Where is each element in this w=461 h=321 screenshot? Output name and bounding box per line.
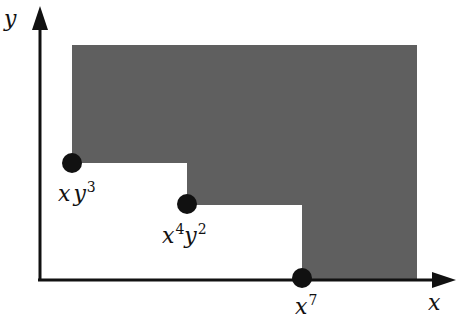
shaded-region [72,45,417,279]
x-axis-arrowhead-icon [432,272,456,288]
y-axis-label: y [4,8,16,30]
label-xy3: xy3 [58,180,96,205]
label-x7: x7 [295,293,317,318]
x-axis-label: x [428,292,440,314]
monomial-staircase-diagram: y x xy3 x4y2 x7 [0,0,461,321]
diagram-graphics [0,0,461,321]
point-xy3 [62,153,82,173]
point-x4y2 [177,194,197,214]
y-axis-arrowhead-icon [32,6,48,30]
label-x4y2: x4y2 [162,222,207,247]
point-x7 [292,268,312,288]
